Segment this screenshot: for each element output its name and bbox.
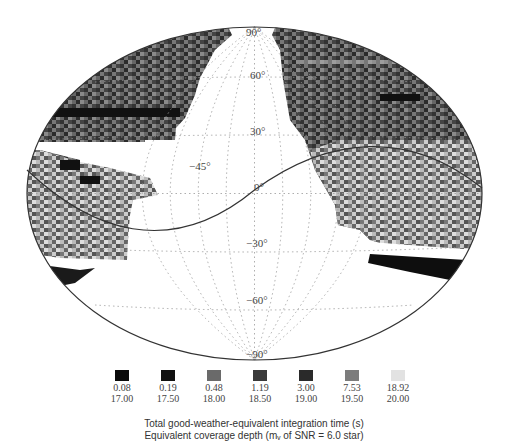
lat-label-minus60: −60°	[246, 294, 268, 306]
legend-depth: 20.00	[368, 393, 428, 404]
caption-line-1: Total good-weather-equivalent integratio…	[0, 418, 508, 430]
lat-label-60: 60°	[250, 69, 265, 81]
lon-label-minus45: −45°	[189, 160, 211, 172]
lat-label-minus30: −30°	[246, 237, 268, 249]
legend-swatch	[391, 370, 405, 381]
legend-swatch	[161, 370, 175, 381]
legend-swatch	[345, 370, 359, 381]
sky-coverage-map: 90° 60° 30° 0° −30° −60° −90° −45°	[0, 0, 508, 365]
legend-swatch	[299, 370, 313, 381]
legend-swatch	[253, 370, 267, 381]
legend-caption: Total good-weather-equivalent integratio…	[0, 418, 508, 442]
legend-time: 18.92	[368, 382, 428, 393]
legend: 0.08 17.00 0.19 17.50 0.48 18.00 1.19 18…	[0, 370, 508, 410]
legend-swatch	[207, 370, 221, 381]
lat-label-minus90: −90°	[246, 348, 268, 360]
caption-line-2: Equivalent coverage depth (mᵥ of SNR = 6…	[0, 430, 508, 442]
lat-label-0: 0°	[254, 181, 264, 193]
legend-entry: 18.92 20.00	[368, 370, 428, 404]
lat-label-30: 30°	[250, 125, 265, 137]
legend-swatch	[115, 370, 129, 381]
lat-label-90: 90°	[246, 26, 261, 38]
